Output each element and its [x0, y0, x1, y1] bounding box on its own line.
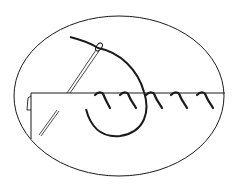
- overcast-stitch-illustration: [0, 0, 237, 191]
- oval-frame: [14, 16, 224, 176]
- stitch: [95, 92, 110, 108]
- illustration-canvas: [0, 0, 237, 191]
- needle-icon: [39, 42, 104, 136]
- stitch-row: [95, 92, 213, 108]
- stitch: [120, 92, 136, 108]
- thread: [70, 37, 146, 136]
- fabric-fold-tab: [27, 96, 31, 110]
- stitch: [171, 92, 187, 108]
- stitch: [146, 92, 162, 108]
- stitch: [197, 92, 213, 108]
